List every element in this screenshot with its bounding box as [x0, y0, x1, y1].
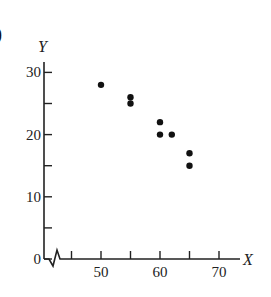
data-point	[157, 131, 163, 137]
panel-label: )	[0, 24, 2, 45]
x-tick-label: 70	[212, 264, 227, 280]
y-tick-label: 20	[26, 127, 41, 143]
data-point	[186, 150, 192, 156]
x-tick-label: 60	[153, 264, 168, 280]
data-point	[127, 100, 133, 106]
y-tick-label: 0	[34, 251, 42, 267]
y-tick-label: 30	[26, 64, 41, 80]
data-points	[98, 82, 193, 169]
data-point	[186, 163, 192, 169]
data-point	[169, 131, 175, 137]
y-tick-label: 10	[26, 189, 41, 205]
y-axis-ticks: 0102030	[26, 64, 52, 267]
x-axis-title: X	[242, 251, 254, 268]
x-tick-label: 50	[94, 264, 109, 280]
data-point	[127, 94, 133, 100]
y-axis-title: Y	[38, 38, 49, 55]
data-point	[157, 119, 163, 125]
data-point	[98, 82, 104, 88]
scatter-plot: ) Y 0102030 X 506070	[0, 0, 271, 297]
x-axis-ticks: 506070	[72, 251, 227, 280]
